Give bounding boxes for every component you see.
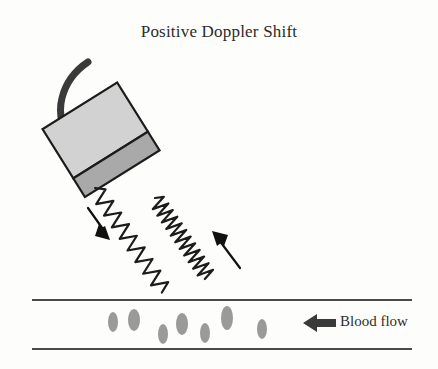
blood-cell	[158, 324, 168, 344]
blood-cells-group	[108, 306, 267, 344]
blood-flow-arrow	[303, 314, 336, 332]
blood-cell	[257, 319, 267, 339]
blood-cell	[221, 306, 233, 330]
blood-cell	[176, 313, 188, 335]
reflected-wave	[148, 194, 214, 282]
reflected-direction-arrow	[212, 231, 240, 268]
blood-flow-label: Blood flow	[340, 313, 408, 330]
page-title: Positive Doppler Shift	[0, 22, 438, 42]
doppler-shift-figure: Positive Doppler Shift	[0, 0, 438, 369]
blood-cell	[128, 309, 140, 331]
blood-cell	[200, 323, 210, 343]
transmitted-wave	[88, 184, 171, 296]
blood-cell	[108, 312, 118, 332]
